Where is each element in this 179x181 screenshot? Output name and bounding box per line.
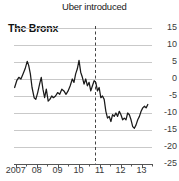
data-series-line [15, 60, 148, 128]
gridlines-group [14, 29, 152, 148]
y-tick-label: 10 [167, 40, 177, 49]
y-tick-label: -5 [169, 91, 177, 100]
y-tick-label: 15 [167, 23, 177, 32]
x-tick-label: 10 [74, 166, 84, 175]
x-tick-label: 11 [95, 166, 104, 175]
y-tick-label: 0 [172, 74, 177, 83]
y-tick-label: -20 [164, 142, 177, 151]
x-tick-label: 09 [53, 166, 63, 175]
y-tick-label: -15 [164, 125, 177, 134]
y-tick-label: -10 [164, 108, 177, 117]
x-tick-label: 12 [116, 166, 126, 175]
x-tick-label: 13 [136, 166, 146, 175]
y-tick-label: -25 [164, 159, 177, 168]
chart-container: Uber introduced The Bronx 151050-5-10-15… [0, 0, 179, 181]
y-tick-label: 5 [172, 57, 177, 66]
plot-area [0, 0, 179, 181]
x-tick-label: 08 [32, 166, 42, 175]
x-tick-label: 2007 [6, 166, 26, 175]
